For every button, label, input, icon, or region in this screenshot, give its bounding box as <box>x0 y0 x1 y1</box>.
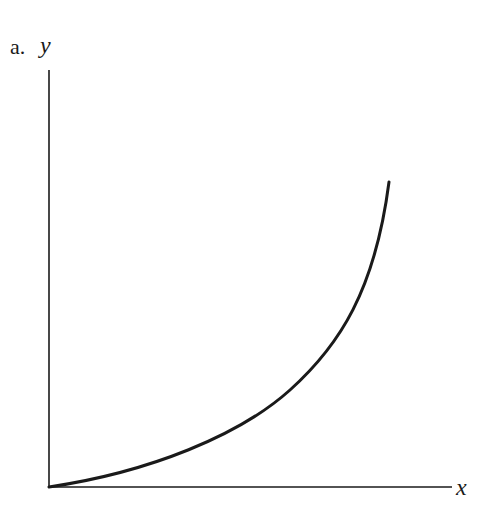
curve-line <box>49 182 389 487</box>
chart-canvas <box>0 0 495 512</box>
